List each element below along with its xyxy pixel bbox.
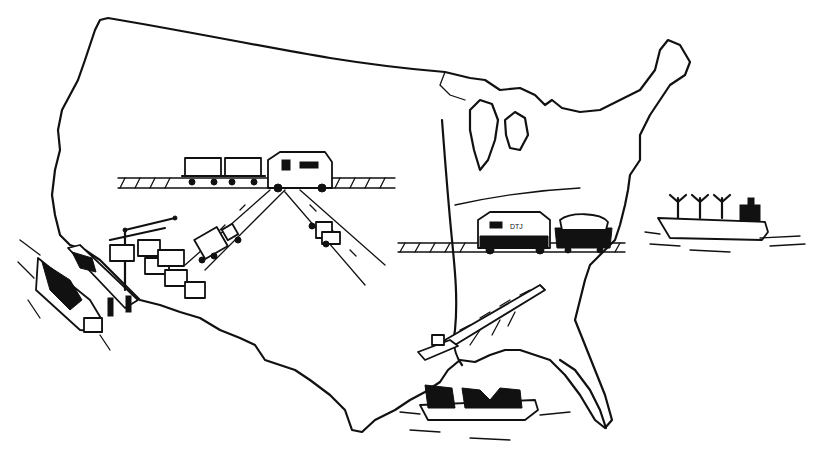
west-train [118,152,395,192]
river-barge [418,285,545,360]
us-transport-drawing: DTJ [0,0,819,453]
west-coast-port [18,216,205,350]
locomotive-marking: DTJ [510,223,523,230]
illustration-canvas: United States freight transportation lin… [0,0,819,453]
highway [185,190,385,285]
atlantic-ship [645,195,805,252]
east-train: DTJ [398,188,625,254]
gulf-ship [400,385,570,440]
